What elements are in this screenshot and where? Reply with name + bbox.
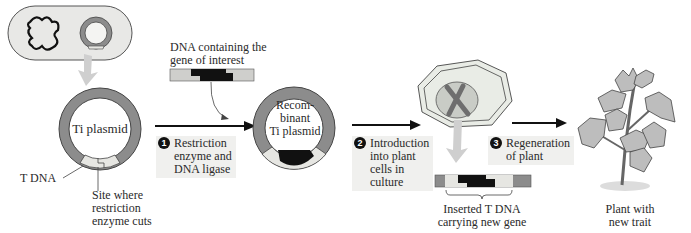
plant-icon bbox=[578, 68, 675, 191]
step-1-number-icon: 1 bbox=[158, 137, 170, 149]
step3-arrow-icon bbox=[556, 118, 567, 128]
step-1-text: Restriction enzyme and DNA ligase bbox=[174, 137, 232, 176]
step-2-label: 2 Introduction into plant cells in cultu… bbox=[352, 136, 433, 191]
step-3-text: Regeneration of plant bbox=[506, 137, 570, 163]
restriction-site-label: Site where restriction enzyme cuts bbox=[92, 189, 152, 228]
plant-label: Plant with new trait bbox=[595, 203, 665, 229]
step-2-text: Introduction into plant cells in culture bbox=[370, 137, 429, 189]
step-2-number-icon: 2 bbox=[354, 137, 366, 149]
bacterium-icon bbox=[8, 6, 132, 60]
gene-dna-strip-icon bbox=[170, 69, 254, 120]
step-3-number-icon: 3 bbox=[490, 137, 502, 149]
step2-arrow-icon bbox=[410, 120, 421, 130]
recombinant-plasmid-label: Recom- binant Ti plasmid bbox=[266, 99, 324, 138]
ti-plasmid-label: Ti plasmid bbox=[68, 122, 132, 135]
t-dna-label: T DNA bbox=[20, 172, 56, 185]
inserted-tdna-strip-icon bbox=[435, 175, 531, 199]
step-1-label: 1 Restriction enzyme and DNA ligase bbox=[156, 136, 236, 178]
step-3-label: 3 Regeneration of plant bbox=[488, 136, 574, 165]
inserted-tdna-label: Inserted T DNA carrying new gene bbox=[432, 203, 532, 229]
gene-of-interest-label: DNA containing the gene of interest bbox=[170, 41, 267, 67]
ti-plasmid-icon bbox=[59, 88, 141, 191]
